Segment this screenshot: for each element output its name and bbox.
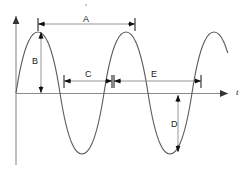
measure-e-label: E: [151, 70, 157, 79]
time-axis-label: t: [236, 88, 239, 97]
waveform-svg: [0, 0, 246, 169]
measure-c-label: C: [85, 70, 92, 79]
measure-d-label: D: [171, 120, 178, 129]
stray-dot-artifact: [85, 4, 87, 6]
waveform-diagram: A B C E D t: [0, 0, 246, 169]
measure-a-label: A: [83, 15, 89, 24]
measure-e: [114, 75, 201, 88]
measure-b-label: B: [32, 57, 38, 66]
